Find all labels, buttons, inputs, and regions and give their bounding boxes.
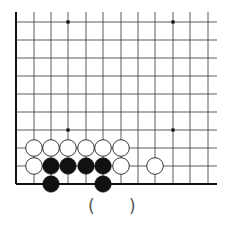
white-stone (43, 140, 60, 157)
star-point (171, 20, 174, 23)
close-paren: ) (129, 196, 136, 216)
black-stone (95, 176, 112, 193)
answer-caption: ( ) (0, 196, 234, 220)
white-stone (26, 140, 43, 157)
open-paren: ( (88, 196, 95, 216)
white-stone (113, 140, 130, 157)
star-point (171, 128, 174, 131)
white-stone (95, 140, 112, 157)
black-stone (78, 158, 95, 175)
white-stone (147, 158, 164, 175)
black-stone (60, 158, 77, 175)
black-stone (43, 176, 60, 193)
white-stone (60, 140, 77, 157)
grid-lines (16, 12, 217, 184)
black-stone (43, 158, 60, 175)
white-stone (26, 158, 43, 175)
go-board (0, 0, 234, 196)
star-point (66, 20, 69, 23)
white-stone (78, 140, 95, 157)
star-point (66, 128, 69, 131)
black-stone (95, 158, 112, 175)
white-stone (113, 158, 130, 175)
